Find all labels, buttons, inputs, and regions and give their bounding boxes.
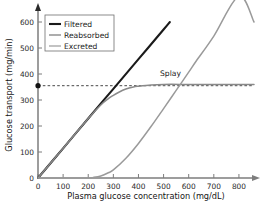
x-axis-title: Plasma glucose concentration (mg/dL) bbox=[67, 191, 225, 201]
x-tick-label: 0 bbox=[36, 182, 41, 191]
x-tick-label: 500 bbox=[157, 182, 171, 191]
y-tick-label: 400 bbox=[20, 70, 34, 79]
y-tick-label: 0 bbox=[29, 174, 34, 183]
y-tick-label: 300 bbox=[20, 96, 34, 105]
x-axis-arrow-icon bbox=[252, 175, 260, 181]
x-tick-label: 200 bbox=[81, 182, 95, 191]
x-tick-label: 100 bbox=[56, 182, 70, 191]
splay-annotation-label: Splay bbox=[160, 69, 181, 78]
x-tick-label: 800 bbox=[232, 182, 246, 191]
tm-marker bbox=[35, 83, 40, 88]
x-tick-label: 400 bbox=[131, 182, 145, 191]
y-axis-title: Glucose transport (mg/min) bbox=[4, 38, 14, 151]
x-tick-label: 700 bbox=[207, 182, 221, 191]
legend-label-reabsorbed: Reabsorbed bbox=[64, 31, 109, 40]
y-tick-label: 100 bbox=[20, 148, 34, 157]
y-tick-label: 600 bbox=[20, 18, 34, 27]
chart-legend: FilteredReabsorbedExcreted bbox=[45, 15, 114, 51]
x-tick-label: 600 bbox=[182, 182, 196, 191]
legend-label-filtered: Filtered bbox=[64, 20, 92, 29]
y-axis-tick-labels: 0100200300400500600 bbox=[20, 18, 34, 183]
y-tick-label: 500 bbox=[20, 44, 34, 53]
x-tick-label: 300 bbox=[106, 182, 120, 191]
y-tick-label: 200 bbox=[20, 122, 34, 131]
marker-points bbox=[35, 83, 40, 88]
glucose-transport-chart: 0100200300400500600 01002003004005006007… bbox=[0, 0, 262, 210]
x-axis-tick-labels: 0100200300400500600700800 bbox=[36, 182, 247, 191]
legend-label-excreted: Excreted bbox=[64, 42, 98, 51]
chart-canvas: 0100200300400500600 01002003004005006007… bbox=[0, 0, 262, 210]
series-reabsorbed bbox=[38, 84, 254, 178]
y-axis-arrow-icon bbox=[35, 3, 41, 11]
